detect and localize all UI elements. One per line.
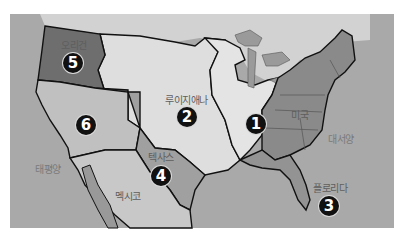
- label-pacific: 태평양: [35, 164, 61, 175]
- label-mexico: 멕시코: [115, 191, 141, 202]
- label-louisiana: 루이지애나: [165, 95, 208, 106]
- marker-2: 2: [177, 107, 197, 127]
- label-atlantic: 대서양: [328, 134, 354, 145]
- marker-3: 3: [319, 196, 339, 216]
- marker-6: 6: [76, 115, 96, 135]
- marker-5: 5: [63, 53, 83, 73]
- label-usa: 미국: [291, 110, 308, 121]
- marker-1: 1: [246, 114, 266, 134]
- territorial-expansion-map: [0, 0, 401, 246]
- label-florida: 플로리다: [313, 183, 347, 194]
- label-oregon: 오리건: [61, 40, 87, 51]
- marker-4: 4: [151, 166, 171, 186]
- label-texas: 텍사스: [148, 152, 174, 163]
